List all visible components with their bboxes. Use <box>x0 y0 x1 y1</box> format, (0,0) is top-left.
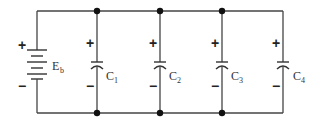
c3-subscript: 3 <box>239 76 243 85</box>
c1-minus-sign: − <box>86 78 94 94</box>
c3-plus-sign: + <box>211 35 219 51</box>
c2-plus-sign: + <box>149 35 157 51</box>
capacitor-c3: + − C 3 <box>211 8 243 116</box>
node-bottom-c3 <box>219 110 225 116</box>
node-top-c3 <box>219 8 225 14</box>
c2-label: C <box>169 69 177 83</box>
c4-label: C <box>293 69 301 83</box>
capacitor-c1: + − C 1 <box>86 8 118 116</box>
capacitor-c4: + − C 4 <box>272 11 305 113</box>
c3-label: C <box>231 69 239 83</box>
c1-label: C <box>106 69 114 83</box>
battery-subscript: b <box>60 66 64 75</box>
c2-subscript: 2 <box>177 76 181 85</box>
c1-plus-sign: + <box>86 35 94 51</box>
c4-minus-sign: − <box>272 78 280 94</box>
c1-subscript: 1 <box>114 76 118 85</box>
c2-minus-sign: − <box>149 78 157 94</box>
battery-eb: + − E b <box>18 11 64 113</box>
node-bottom-c2 <box>157 110 163 116</box>
node-bottom-c1 <box>94 110 100 116</box>
c4-plus-sign: + <box>272 35 280 51</box>
battery-label: E <box>52 59 59 73</box>
battery-plus-sign: + <box>18 37 26 53</box>
node-top-c1 <box>94 8 100 14</box>
node-top-c2 <box>157 8 163 14</box>
c4-subscript: 4 <box>301 76 305 85</box>
c3-minus-sign: − <box>211 78 219 94</box>
capacitor-c2: + − C 2 <box>149 8 181 116</box>
battery-minus-sign: − <box>18 78 26 94</box>
circuit-diagram: + − E b + − C 1 + − C 2 + − <box>0 0 318 126</box>
